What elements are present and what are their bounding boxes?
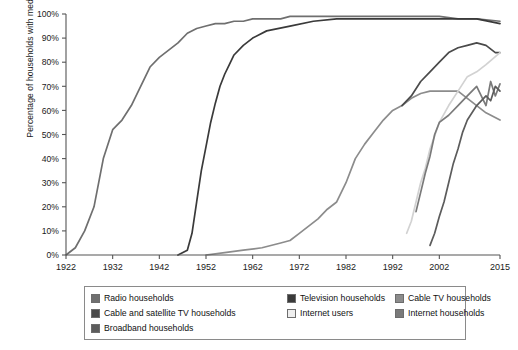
y-tick-label: 40% bbox=[42, 154, 60, 164]
legend-item[interactable]: Radio households bbox=[91, 294, 287, 303]
x-axis-tick-group: 1922193219421952196219721982199220022015 bbox=[56, 255, 510, 272]
series-line bbox=[430, 86, 500, 245]
legend-item-label: Internet households bbox=[408, 309, 484, 318]
x-tick-label: 2015 bbox=[490, 262, 510, 272]
legend-swatch-icon bbox=[91, 324, 100, 333]
series-line bbox=[206, 91, 500, 255]
y-tick-label: 60% bbox=[42, 106, 60, 116]
chart-legend: Radio householdsTelevision householdsCab… bbox=[84, 286, 466, 340]
legend-item-label: Cable and satellite TV households bbox=[104, 309, 236, 318]
x-tick-label: 1922 bbox=[56, 262, 76, 272]
x-tick-label: 1962 bbox=[243, 262, 263, 272]
legend-item-label: Cable TV households bbox=[408, 294, 491, 303]
legend-swatch-icon bbox=[287, 294, 296, 303]
y-tick-label: 50% bbox=[42, 130, 60, 140]
x-tick-label: 1992 bbox=[383, 262, 403, 272]
legend-item[interactable]: Television households bbox=[287, 294, 395, 303]
legend-swatch-icon bbox=[287, 309, 296, 318]
legend-item[interactable]: Cable TV households bbox=[395, 294, 491, 303]
legend-item-label: Radio households bbox=[104, 294, 174, 303]
legend-item-label: Broadband households bbox=[104, 324, 193, 333]
y-axis-tick-group: 0%10%20%30%40%50%60%70%80%90%100% bbox=[37, 9, 66, 260]
series-line bbox=[407, 53, 500, 234]
legend-item[interactable]: Internet households bbox=[395, 309, 491, 318]
y-tick-label: 80% bbox=[42, 57, 60, 67]
y-tick-label: 90% bbox=[42, 33, 60, 43]
chart-container: Percentage of households with media 0%10… bbox=[0, 0, 518, 350]
x-tick-label: 1932 bbox=[103, 262, 123, 272]
x-tick-label: 2002 bbox=[429, 262, 449, 272]
y-tick-label: 10% bbox=[42, 226, 60, 236]
series-line bbox=[178, 19, 500, 255]
legend-swatch-icon bbox=[395, 309, 404, 318]
legend-item-label: Internet users bbox=[300, 309, 353, 318]
legend-item[interactable]: Broadband households bbox=[91, 324, 287, 333]
legend-item-label: Television households bbox=[300, 294, 385, 303]
legend-item[interactable]: Internet users bbox=[287, 309, 395, 318]
y-tick-label: 70% bbox=[42, 82, 60, 92]
y-tick-label: 30% bbox=[42, 178, 60, 188]
legend-swatch-icon bbox=[395, 294, 404, 303]
legend-swatch-icon bbox=[91, 309, 100, 318]
y-tick-label: 100% bbox=[37, 9, 59, 19]
y-tick-label: 0% bbox=[47, 250, 60, 260]
legend-swatch-icon bbox=[91, 294, 100, 303]
x-tick-label: 1942 bbox=[149, 262, 169, 272]
x-tick-label: 1972 bbox=[289, 262, 309, 272]
x-tick-label: 1982 bbox=[336, 262, 356, 272]
series-group bbox=[66, 16, 500, 255]
y-tick-label: 20% bbox=[42, 202, 60, 212]
legend-item[interactable]: Cable and satellite TV households bbox=[91, 309, 287, 318]
x-tick-label: 1952 bbox=[196, 262, 216, 272]
